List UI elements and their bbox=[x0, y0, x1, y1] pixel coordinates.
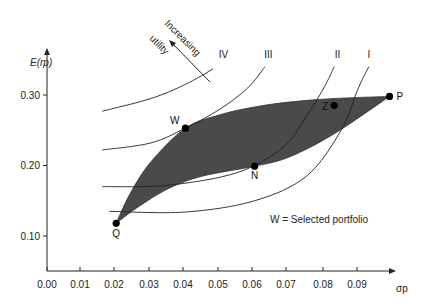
y-tick-label: 0.30 bbox=[21, 90, 41, 101]
y-tick-label: 0.20 bbox=[21, 160, 41, 171]
point-z bbox=[331, 102, 338, 109]
y-tick-label: 0.10 bbox=[21, 231, 41, 242]
legend-note: W = Selected portfolio bbox=[270, 214, 369, 225]
x-tick-label: 0.03 bbox=[139, 279, 159, 290]
x-axis-label: σp bbox=[396, 283, 408, 294]
x-tick-label: 0.07 bbox=[276, 279, 296, 290]
point-label-p: P bbox=[397, 91, 404, 102]
curve-label-iii: III bbox=[264, 49, 272, 60]
indifference-curve-iv bbox=[102, 69, 213, 111]
point-label-q: Q bbox=[112, 228, 120, 239]
efficient-frontier-chart: IIIIIIIV 0.000.010.020.030.040.050.060.0… bbox=[0, 0, 424, 306]
x-tick-label: 0.02 bbox=[104, 279, 124, 290]
x-tick-label: 0.00 bbox=[37, 279, 57, 290]
point-p bbox=[386, 93, 393, 100]
x-axis-arrow-icon bbox=[389, 268, 396, 274]
utility-label: utility bbox=[148, 33, 172, 57]
increasing-label: Increasing bbox=[163, 18, 203, 58]
point-w bbox=[182, 125, 189, 132]
point-q bbox=[113, 220, 120, 227]
point-label-w: W bbox=[170, 115, 180, 126]
curve-label-ii: II bbox=[335, 49, 341, 60]
x-tick-label: 0.04 bbox=[173, 279, 193, 290]
point-label-n: N bbox=[251, 170, 258, 181]
point-label-z: Z bbox=[322, 101, 328, 112]
y-axis-label: E(rp) bbox=[30, 57, 52, 68]
x-tick-label: 0.01 bbox=[70, 279, 90, 290]
curve-label-iv: IV bbox=[219, 49, 229, 60]
x-tick-label: 0.06 bbox=[242, 279, 262, 290]
y-axis-arrow-icon bbox=[44, 48, 50, 55]
x-tick-label: 0.09 bbox=[347, 279, 367, 290]
point-n bbox=[251, 163, 258, 170]
curve-label-i: I bbox=[367, 49, 370, 60]
x-tick-label: 0.08 bbox=[313, 279, 333, 290]
x-tick-label: 0.05 bbox=[208, 279, 228, 290]
